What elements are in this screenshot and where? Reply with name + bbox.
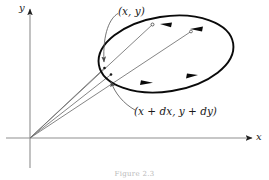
point-marker-xy-upper bbox=[151, 23, 154, 26]
axes-group bbox=[6, 9, 252, 168]
curve-direction-arrow-right bbox=[160, 23, 172, 28]
radius-vector-to-xy bbox=[30, 68, 105, 138]
callout-arrow-dxdy bbox=[111, 82, 135, 111]
callout-arrows-group bbox=[104, 14, 135, 111]
figure-container: y x (x, y) (x + dx, y + dy) Figure 2.3 bbox=[0, 0, 269, 180]
point-marker-dxdy bbox=[110, 73, 113, 76]
radius-vector-to-dxdy bbox=[30, 75, 111, 139]
figure-caption: Figure 2.3 bbox=[0, 170, 269, 178]
closed-curve bbox=[93, 6, 239, 101]
curve-direction-arrow-bottom bbox=[140, 80, 153, 85]
y-axis-label: y bbox=[19, 3, 25, 13]
radius-vector-to-dxdy-upper bbox=[30, 32, 191, 139]
figure-canvas bbox=[0, 0, 269, 180]
point-marker-xy bbox=[103, 67, 106, 70]
curve-direction-arrow-lower-right bbox=[186, 73, 198, 78]
x-axis-label: x bbox=[256, 132, 262, 142]
closed-curve-group bbox=[93, 6, 239, 101]
curve-point-markers bbox=[103, 23, 192, 76]
point-marker-dxdy-upper bbox=[190, 30, 193, 33]
point-label-dxdy: (x + dx, y + dy) bbox=[134, 106, 217, 117]
point-label-xy: (x, y) bbox=[118, 6, 145, 17]
